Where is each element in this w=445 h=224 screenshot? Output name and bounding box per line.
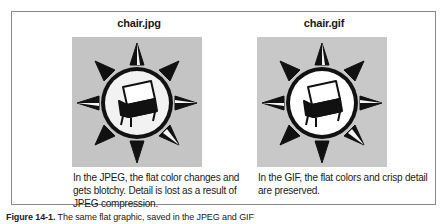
compass-chair-image [72,37,202,167]
figure-frame: chair.jpg [11,11,436,205]
panel-title: chair.jpg [72,17,206,29]
figure-caption: Figure 14-1. The same flat graphic, save… [6,212,254,222]
caption-label: Figure 14-1. [6,212,55,222]
panel-title: chair.gif [257,17,391,29]
panel-description: In the JPEG, the flat color changes and … [73,171,243,210]
panel-description: In the GIF, the flat colors and crisp de… [258,171,428,197]
compass-chair-image [257,37,387,167]
compass-chair-icon [257,37,387,167]
caption-text: The same flat graphic, saved in the JPEG… [58,212,254,222]
compass-chair-icon [72,37,202,167]
